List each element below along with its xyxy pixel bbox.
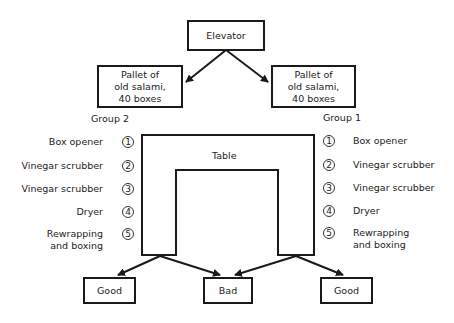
arrow-elevator-to-left-pallet	[186, 50, 226, 82]
pallet-left-box: Pallet of old salami, 40 boxes	[97, 65, 183, 108]
bad-label: Bad	[219, 285, 237, 297]
arrow-left-to-bad	[160, 256, 220, 275]
right-station-1-label: Box opener	[353, 135, 407, 147]
pallet-left-line1: Pallet of	[121, 69, 159, 81]
pallet-left-line3: 40 boxes	[119, 93, 162, 105]
good-right-box: Good	[320, 277, 373, 304]
pallet-right-line3: 40 boxes	[292, 93, 335, 105]
pallet-right-line1: Pallet of	[294, 69, 332, 81]
left-station-2-number: 2	[122, 160, 134, 172]
left-station-3-label: Vinegar scrubber	[22, 183, 103, 195]
left-station-3-number: 3	[122, 183, 134, 195]
right-station-5-label-2: and boxing	[353, 239, 406, 251]
arrow-right-to-good	[296, 256, 343, 275]
right-station-5-label-1: Rewrapping	[353, 227, 409, 239]
elevator-label: Elevator	[206, 30, 245, 42]
left-station-1-label: Box opener	[49, 136, 103, 148]
bad-box: Bad	[203, 277, 253, 304]
arrow-left-to-good	[118, 256, 160, 275]
good-right-label: Good	[334, 285, 359, 297]
left-station-1-number: 1	[122, 136, 134, 148]
right-station-5-number: 5	[323, 227, 335, 239]
good-left-box: Good	[83, 277, 136, 304]
left-station-2-label: Vinegar scrubber	[22, 160, 103, 172]
table-label: Table	[212, 150, 237, 162]
elevator-box: Elevator	[187, 20, 265, 51]
right-station-4-number: 4	[323, 205, 335, 217]
right-station-4-label: Dryer	[353, 205, 380, 217]
group-1-title: Group 1	[323, 112, 361, 124]
pallet-right-line2: old salami,	[288, 81, 340, 93]
right-station-3-number: 3	[323, 182, 335, 194]
pallet-right-box: Pallet of old salami, 40 boxes	[271, 65, 356, 108]
left-station-5-number: 5	[122, 228, 134, 240]
right-station-2-number: 2	[323, 159, 335, 171]
group-2-title: Group 2	[91, 113, 129, 125]
left-station-4-label: Dryer	[76, 206, 103, 218]
pallet-left-line2: old salami,	[114, 81, 166, 93]
good-left-label: Good	[97, 285, 122, 297]
right-station-3-label: Vinegar scrubber	[353, 182, 434, 194]
right-station-1-number: 1	[323, 135, 335, 147]
left-station-4-number: 4	[122, 206, 134, 218]
left-station-5-label-2: and boxing	[50, 240, 103, 252]
arrow-right-to-bad	[235, 256, 296, 275]
arrow-elevator-to-right-pallet	[226, 50, 268, 82]
left-station-5-label-1: Rewrapping	[47, 228, 103, 240]
right-station-2-label: Vinegar scrubber	[353, 159, 434, 171]
